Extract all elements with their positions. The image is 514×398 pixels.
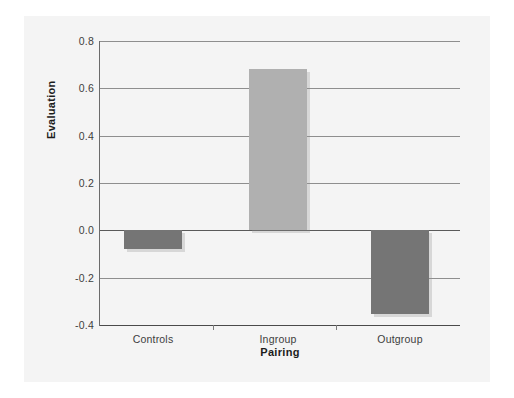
- y-tick-label: 0.2: [79, 177, 94, 189]
- x-axis-line: [100, 325, 460, 326]
- y-tick-label: 0.6: [79, 82, 94, 94]
- gridline-0.8: [100, 41, 460, 42]
- bar-body: [371, 230, 429, 314]
- y-axis-tick-labels: 0.8 0.6 0.4 0.2 0.0 -0.2 -0.4: [24, 41, 94, 325]
- x-tick-label-controls: Controls: [133, 333, 174, 345]
- y-tick-label: 0.8: [79, 35, 94, 47]
- figure-panel: Evaluation 0.8 0.6 0.4 0.2 0.0 -0.2 -0.4: [24, 16, 490, 382]
- bar-body: [124, 230, 182, 249]
- bar-ingroup[interactable]: [249, 69, 307, 230]
- bar-outgroup[interactable]: [371, 230, 429, 314]
- y-tick-label: -0.2: [75, 272, 94, 284]
- y-tick-label: 0.4: [79, 130, 94, 142]
- y-tick-label: 0.0: [79, 224, 94, 236]
- x-tick-mark: [213, 325, 214, 330]
- x-tick-mark: [336, 325, 337, 330]
- plot-area: Controls Ingroup Outgroup: [100, 41, 460, 325]
- x-tick-label-ingroup: Ingroup: [259, 333, 296, 345]
- x-axis-title: Pairing: [100, 346, 460, 358]
- bar-body: [249, 69, 307, 230]
- y-tick-label: -0.4: [75, 319, 94, 331]
- x-tick-label-outgroup: Outgroup: [377, 333, 422, 345]
- bar-controls[interactable]: [124, 230, 182, 249]
